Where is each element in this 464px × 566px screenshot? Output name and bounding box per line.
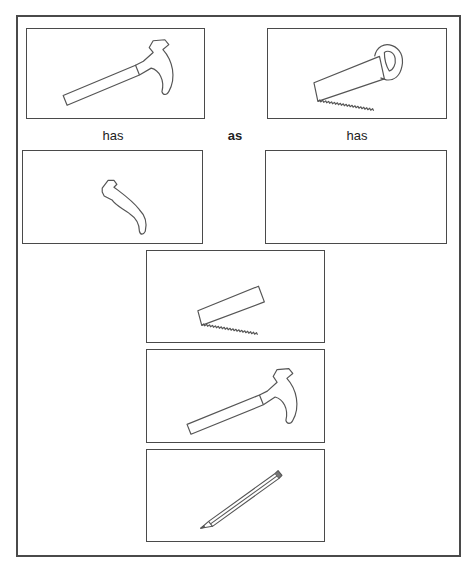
option-saw-blade[interactable]: [146, 250, 325, 343]
label-has-right: has: [317, 128, 397, 143]
pencil-icon: [147, 450, 324, 541]
label-has-left: has: [73, 128, 153, 143]
answer-slot[interactable]: [265, 150, 447, 244]
option-pencil[interactable]: [146, 449, 325, 542]
option-hammer[interactable]: [146, 349, 325, 443]
hammer-icon: [27, 29, 204, 118]
saw-icon: [268, 29, 446, 118]
label-as: as: [195, 128, 275, 143]
analogy-box-claw: [22, 150, 203, 244]
hammer-icon: [147, 350, 324, 442]
analogy-box-saw: [267, 28, 447, 119]
analogy-box-hammer: [26, 28, 205, 119]
hammer-claw-head-icon: [23, 151, 202, 243]
saw-blade-icon: [147, 251, 324, 342]
